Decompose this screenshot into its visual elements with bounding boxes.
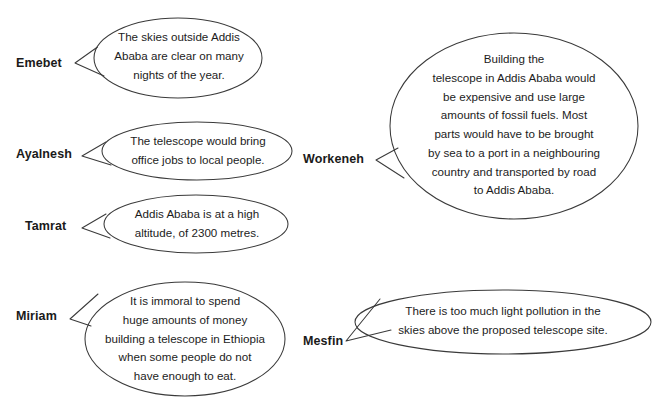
bubble-text-miriam: It is immoral to spend huge amounts of m… [86, 292, 284, 386]
speaker-label-emebet: Emebet [16, 57, 62, 70]
speech-bubble-diagram: Emebet The skies outside Addis Ababa are… [0, 0, 664, 406]
speaker-label-tamrat: Tamrat [25, 220, 66, 233]
bubble-text-tamrat: Addis Ababa is at a high altitude, of 23… [112, 205, 282, 243]
bubble-text-mesfin: There is too much light pollution in the… [362, 302, 644, 340]
bubble-text-emebet: The skies outside Addis Ababa are clear … [100, 28, 258, 84]
speaker-label-miriam: Miriam [16, 310, 57, 323]
speaker-label-mesfin: Mesfin [303, 335, 343, 348]
bubble-text-ayalnesh: The telescope would bring office jobs to… [110, 132, 286, 170]
bubble-text-workeneh: Building the telescope in Addis Ababa wo… [396, 50, 632, 200]
speaker-label-ayalnesh: Ayalnesh [16, 148, 72, 161]
speaker-label-workeneh: Workeneh [303, 153, 364, 166]
